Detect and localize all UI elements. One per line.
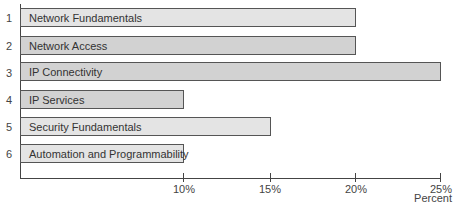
bar-security-fundamentals: Security Fundamentals	[20, 117, 271, 136]
row-number: 4	[4, 94, 14, 106]
x-axis-line	[20, 178, 441, 179]
x-tick-label: 10%	[173, 183, 195, 195]
bar-label: IP Services	[29, 94, 84, 106]
row-number: 6	[4, 148, 14, 160]
x-tick	[440, 173, 441, 182]
bar-label: Automation and Programmability	[29, 148, 189, 160]
x-tick	[183, 173, 184, 182]
row-number: 3	[4, 67, 14, 79]
bar-label: Security Fundamentals	[29, 121, 142, 133]
row-number: 1	[4, 12, 14, 24]
bar-label: IP Connectivity	[29, 66, 102, 78]
x-tick	[355, 173, 356, 182]
bar-label: Network Access	[29, 40, 107, 52]
bar-ip-connectivity: IP Connectivity	[20, 62, 441, 81]
bar-network-access: Network Access	[20, 36, 356, 55]
bar-network-fundamentals: Network Fundamentals	[20, 8, 356, 27]
row-number: 2	[4, 40, 14, 52]
bar-label: Network Fundamentals	[29, 12, 142, 24]
row-number: 5	[4, 121, 14, 133]
x-tick-label: 15%	[259, 183, 281, 195]
bar-ip-services: IP Services	[20, 90, 184, 109]
x-tick	[270, 173, 271, 182]
bar-automation-programmability: Automation and Programmability	[20, 144, 184, 163]
x-axis-title: Percent	[414, 192, 452, 203]
x-tick-label: 20%	[345, 183, 367, 195]
